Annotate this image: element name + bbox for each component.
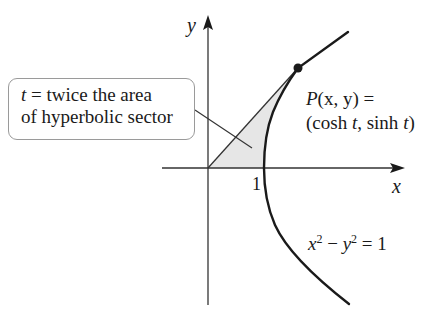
point-p-label: P(x, y) =: [306, 88, 374, 110]
eq-y: y: [343, 233, 351, 254]
point-name: P: [306, 88, 318, 109]
point-coords: (x, y) =: [318, 88, 375, 109]
diagram-canvas: 1 x y: [0, 0, 430, 320]
hyperbola-equation: x2 − y2 = 1: [308, 228, 387, 255]
callout-line-1-text: = twice the area: [26, 84, 152, 105]
point-param-label: (cosh t, sinh t): [306, 112, 415, 134]
eq-minus: −: [322, 233, 342, 254]
callout-line-1: t = twice the area: [21, 84, 194, 106]
param-mid: , sinh: [357, 112, 403, 133]
tick-label-1: 1: [252, 174, 261, 194]
x-axis-label: x: [391, 175, 401, 197]
y-axis-label: y: [185, 14, 196, 37]
param-close: ): [408, 112, 414, 133]
callout-line-2: of hyperbolic sector: [21, 106, 194, 128]
eq-rhs: = 1: [357, 233, 387, 254]
callout-box: t = twice the area of hyperbolic sector: [8, 78, 195, 140]
hyperbolic-sector-diagram: 1 x y t = twice the area of hyperbolic s…: [0, 0, 430, 320]
param-open: (cosh: [306, 112, 352, 133]
point-p-marker: [294, 64, 303, 73]
